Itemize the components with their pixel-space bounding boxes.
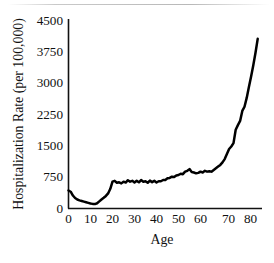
hospitalization-rate-curve xyxy=(69,39,258,204)
y-tick-label: 750 xyxy=(43,169,63,184)
y-tick-label: 1500 xyxy=(37,138,64,153)
y-axis-title: Hospitalization Rate (per 100,000) xyxy=(11,18,27,210)
x-tick-label: 0 xyxy=(65,211,72,226)
y-tick-label: 3750 xyxy=(37,44,64,59)
x-tick-label: 40 xyxy=(150,211,164,226)
x-tick-label: 50 xyxy=(172,211,186,226)
x-axis-title: Age xyxy=(151,232,174,247)
x-tick-labels: 0 10 20 30 40 50 60 70 80 xyxy=(65,211,257,226)
x-tick-label: 70 xyxy=(222,211,236,226)
y-tick-label: 0 xyxy=(56,201,63,216)
x-tick-label: 80 xyxy=(244,211,258,226)
x-tick-label: 30 xyxy=(128,211,142,226)
chart-figure: Hospitalization Rate (per 100,000) 4500 … xyxy=(0,0,274,263)
x-tick-label: 60 xyxy=(194,211,208,226)
y-tick-label: 2250 xyxy=(37,107,64,122)
y-tick-labels: 4500 3750 3000 2250 1500 750 0 xyxy=(37,13,64,216)
y-tick-label: 3000 xyxy=(37,75,64,90)
y-tick-label: 4500 xyxy=(37,13,64,28)
hospitalization-rate-line-chart: Hospitalization Rate (per 100,000) 4500 … xyxy=(0,0,274,263)
x-tick-label: 10 xyxy=(84,211,98,226)
x-tick-label: 20 xyxy=(106,211,120,226)
